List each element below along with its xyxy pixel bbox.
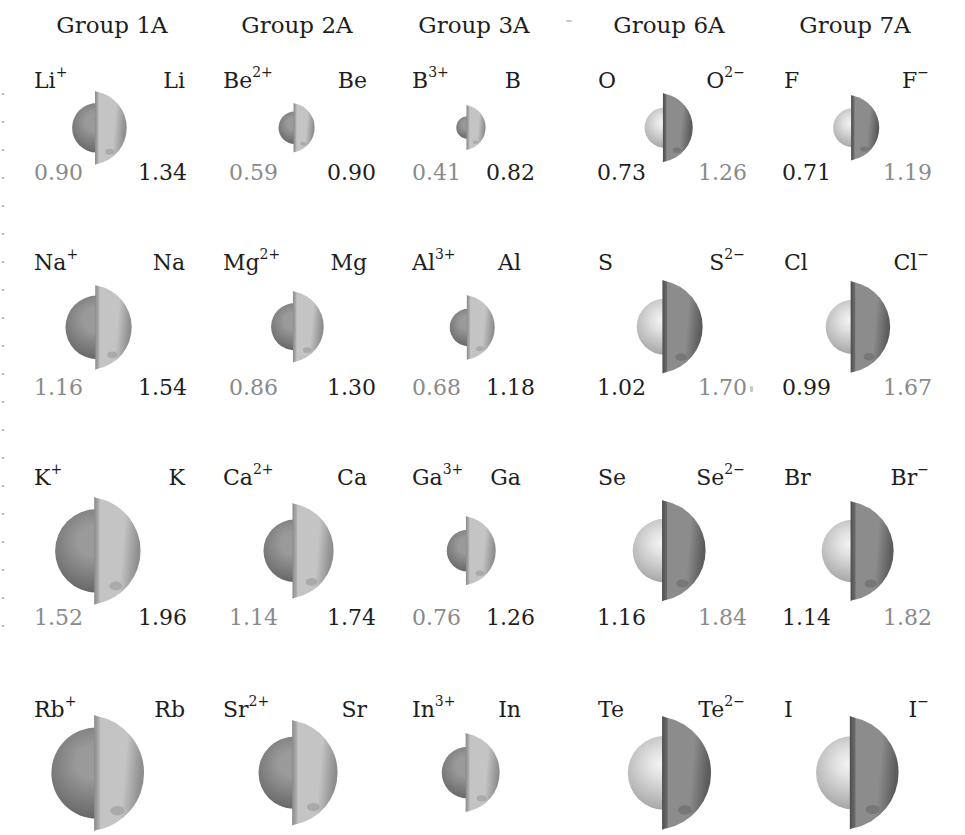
charge-superscript: 2− (724, 693, 745, 709)
element-symbol: Rb (154, 697, 185, 722)
radius-value-left: 0.68 (412, 375, 461, 400)
element-symbol: O (598, 68, 616, 93)
element-symbol: Mg (223, 250, 260, 275)
charge-superscript: 2+ (249, 693, 270, 709)
radius-value-left: 0.73 (597, 160, 646, 185)
element-symbol: S (598, 250, 613, 275)
element-symbol: Be (338, 68, 367, 93)
element-symbol: Se (696, 465, 724, 490)
species-label-right: Sr (341, 697, 367, 722)
species-label-left: Te (598, 697, 624, 722)
atom-inside-anion-sphere-icon (791, 711, 914, 834)
group-header-6a: Group 6A (613, 12, 724, 38)
species-label-left: Sr2+ (223, 697, 269, 722)
element-symbol: O (706, 68, 724, 93)
ion-inside-atom-sphere-icon (428, 511, 507, 590)
element-symbol: Be (223, 68, 252, 93)
ion-inside-atom-sphere-icon (55, 86, 139, 170)
charge-superscript: 2+ (253, 461, 274, 477)
stray-mark (566, 20, 572, 22)
species-label-left: F (784, 68, 799, 93)
radius-value-right: 1.84 (698, 605, 747, 630)
radius-value-right: 1.74 (327, 605, 376, 630)
species-label-right: K (169, 465, 185, 490)
species-label-left: Be2+ (223, 68, 273, 93)
atom-inside-anion-sphere-icon (625, 88, 704, 167)
radius-value-left: 1.14 (229, 605, 278, 630)
radius-value-left: 0.99 (782, 375, 831, 400)
charge-superscript: + (65, 693, 77, 709)
atom-inside-anion-sphere-icon (798, 496, 908, 606)
species-label-right: Rb (154, 697, 185, 722)
radius-value-left: 0.90 (34, 160, 83, 185)
radius-value-right: 1.26 (698, 160, 747, 185)
radius-value-left: 0.59 (229, 160, 278, 185)
element-symbol: Li (34, 68, 56, 93)
radius-value-right: 1.30 (327, 375, 376, 400)
charge-superscript: 2− (724, 64, 745, 80)
group-header-2a: Group 2A (241, 12, 352, 38)
element-symbol: Te (598, 697, 624, 722)
element-symbol: B (412, 68, 428, 93)
species-label-right: Be (338, 68, 367, 93)
species-label-left: Na+ (34, 250, 78, 275)
atom-inside-anion-sphere-icon (815, 90, 890, 165)
ion-inside-atom-sphere-icon (265, 98, 325, 158)
charge-superscript: 2+ (260, 246, 281, 262)
radius-value-right: 1.34 (138, 160, 187, 185)
radius-value-right: 0.90 (327, 160, 376, 185)
species-label-right: Na (153, 250, 185, 275)
ion-inside-atom-sphere-icon (38, 492, 156, 610)
species-label-right: Te2− (698, 697, 745, 722)
ion-inside-atom-sphere-icon (254, 286, 336, 368)
charge-superscript: + (66, 246, 78, 262)
element-symbol: Na (34, 250, 66, 275)
radius-value-left: 1.16 (34, 375, 83, 400)
ion-inside-atom-sphere-icon (242, 498, 348, 604)
ion-inside-atom-sphere-icon (440, 100, 495, 155)
element-symbol: Al (498, 250, 521, 275)
species-label-left: Li+ (34, 68, 67, 93)
charge-superscript: 2− (724, 246, 745, 262)
element-symbol: Br (784, 465, 811, 490)
element-symbol: Sr (223, 697, 249, 722)
charge-superscript: 3+ (435, 246, 456, 262)
species-label-left: Br (784, 465, 811, 490)
radius-value-left: 1.14 (782, 605, 831, 630)
element-symbol: K (34, 465, 50, 490)
species-label-right: Ca (337, 465, 367, 490)
species-label-right: Cl− (893, 250, 929, 275)
ion-inside-atom-sphere-icon (237, 715, 353, 831)
element-symbol: Ca (223, 465, 253, 490)
species-label-right: O2− (706, 68, 745, 93)
charge-superscript: 2+ (252, 64, 273, 80)
species-label-left: Rb+ (34, 697, 76, 722)
atom-inside-anion-sphere-icon (603, 711, 727, 835)
stray-mark (750, 386, 753, 392)
species-label-left: In3+ (412, 697, 456, 722)
atom-inside-anion-sphere-icon (802, 276, 904, 378)
group-header-1a: Group 1A (56, 12, 167, 38)
radius-value-right: 1.70 (698, 375, 747, 400)
species-label-left: Mg2+ (223, 250, 280, 275)
species-label-left: K+ (34, 465, 62, 490)
charge-superscript: 2− (724, 461, 745, 477)
radius-value-right: 1.67 (883, 375, 932, 400)
radius-value-left: 0.41 (412, 160, 461, 185)
charge-superscript: + (56, 64, 68, 80)
species-label-right: Mg (330, 250, 367, 275)
group-header-3a: Group 3A (418, 12, 529, 38)
species-label-right: I− (909, 697, 929, 722)
radius-value-left: 0.71 (782, 160, 831, 185)
element-symbol: I (909, 697, 918, 722)
element-symbol: Cl (784, 250, 808, 275)
species-label-right: B (505, 68, 521, 93)
radius-value-left: 1.16 (597, 605, 646, 630)
species-label-left: O (598, 68, 616, 93)
radius-value-right: 1.54 (138, 375, 187, 400)
species-label-right: Ga (490, 465, 521, 490)
element-symbol: Te (698, 697, 724, 722)
group-header-7a: Group 7A (799, 12, 910, 38)
species-label-right: S2− (709, 250, 745, 275)
species-label-left: B3+ (412, 68, 449, 93)
